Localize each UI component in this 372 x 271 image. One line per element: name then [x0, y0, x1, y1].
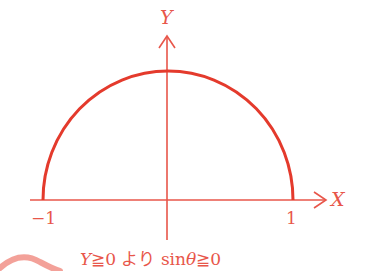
tick-label-negative-one: −1: [31, 208, 56, 228]
semicircle-curve: [43, 71, 293, 200]
y-axis-label: Y: [160, 6, 173, 28]
caption-yori: より: [121, 249, 155, 269]
caption: Y≧0 より sinθ≧0: [80, 245, 221, 270]
caption-geq-2: ≧: [196, 249, 210, 269]
caption-sin: sin: [161, 249, 186, 269]
caption-theta: θ: [186, 249, 196, 269]
caption-zero-2: 0: [210, 249, 221, 269]
decorative-arc: [0, 257, 60, 271]
x-axis-label: X: [331, 188, 345, 210]
caption-var-y: Y: [80, 249, 91, 269]
diagram-canvas: Y X −1 1 Y≧0 より sinθ≧0: [0, 0, 372, 271]
caption-geq-1: ≧: [91, 249, 105, 269]
tick-label-positive-one: 1: [286, 208, 297, 228]
diagram-graphic: [0, 0, 372, 271]
caption-zero-1: 0: [105, 249, 116, 269]
